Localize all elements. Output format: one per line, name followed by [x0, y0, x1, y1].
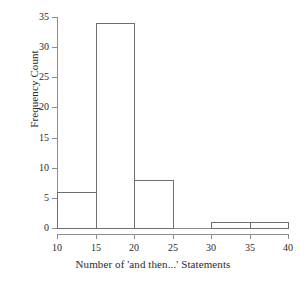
- x-axis-tick-label: 10: [42, 242, 72, 253]
- x-axis-tick: [96, 234, 97, 239]
- x-axis-tick-label: 15: [81, 242, 111, 253]
- histogram-bar: [211, 222, 251, 229]
- x-axis-title: Number of 'and then...' Statements: [0, 258, 306, 271]
- histogram-bar: [57, 192, 97, 229]
- y-axis-tick: [52, 77, 57, 78]
- y-axis-tick-label: 30: [9, 42, 49, 52]
- x-axis-tick: [288, 234, 289, 239]
- histogram-figure: Frequency Count Number of 'and then...' …: [0, 0, 306, 284]
- x-axis-tick-label: 30: [196, 242, 226, 253]
- y-axis-tick-label: 5: [9, 193, 49, 203]
- y-axis-tick-label: 25: [9, 72, 49, 82]
- x-axis-tick-label: 40: [273, 242, 303, 253]
- y-axis-tick-label: 15: [9, 133, 49, 143]
- y-axis-tick-label: 20: [9, 102, 49, 112]
- y-axis-tick: [52, 107, 57, 108]
- x-axis-tick-label: 35: [235, 242, 265, 253]
- y-axis-tick: [52, 17, 57, 18]
- y-axis-tick-label: 35: [9, 12, 49, 22]
- x-axis-tick: [134, 234, 135, 239]
- y-axis-tick-label: 0: [9, 223, 49, 233]
- y-axis-tick: [52, 168, 57, 169]
- x-axis-tick-label: 25: [158, 242, 188, 253]
- x-axis-tick: [173, 234, 174, 239]
- x-axis-tick: [57, 234, 58, 239]
- y-axis-tick-label: 10: [9, 163, 49, 173]
- y-axis-tick: [52, 47, 57, 48]
- histogram-bar: [250, 222, 289, 229]
- y-axis-tick: [52, 138, 57, 139]
- x-axis-tick: [250, 234, 251, 239]
- histogram-bar: [134, 180, 174, 229]
- x-axis-tick-label: 20: [119, 242, 149, 253]
- histogram-bar: [96, 23, 135, 229]
- x-axis-tick: [211, 234, 212, 239]
